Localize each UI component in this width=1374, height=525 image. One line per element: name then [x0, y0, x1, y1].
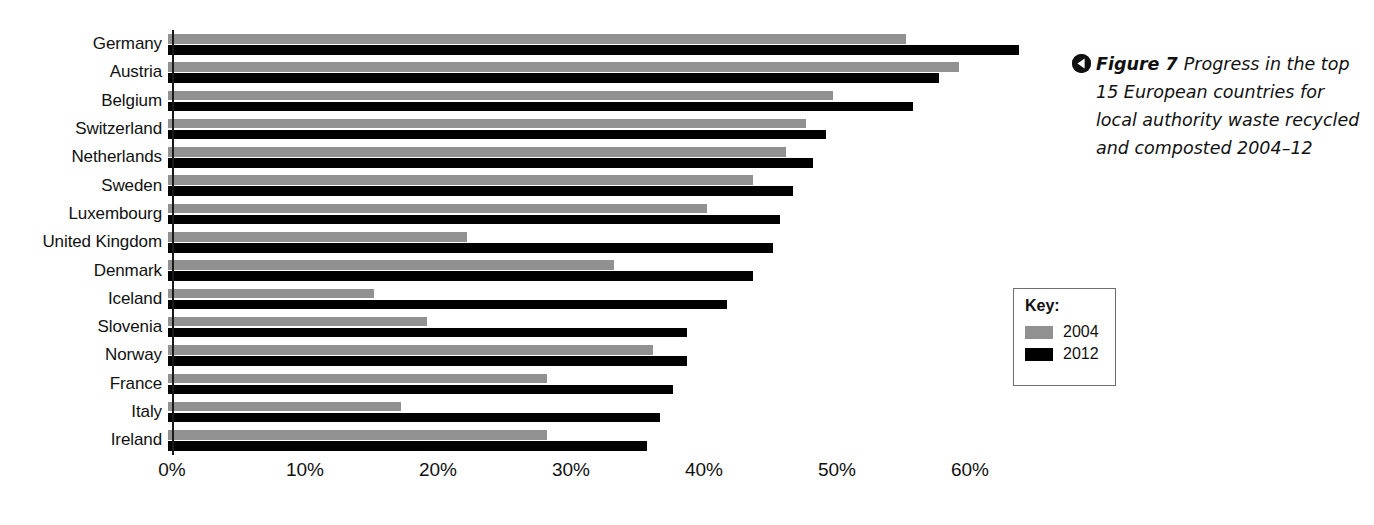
bars-cell — [168, 30, 1040, 58]
x-tick-label: 20% — [419, 459, 457, 481]
bar-2004 — [168, 260, 614, 270]
bars-cell — [168, 171, 1040, 199]
bar-2012 — [168, 271, 753, 281]
bar-2012 — [168, 158, 813, 168]
bar-2012 — [168, 130, 826, 140]
bars-cell — [168, 228, 1040, 256]
bar-2004 — [168, 204, 707, 214]
bar-2004 — [168, 232, 467, 242]
chart-row: Italy — [0, 398, 1040, 426]
category-label: Denmark — [0, 262, 168, 280]
category-label: Iceland — [0, 290, 168, 308]
bar-2004 — [168, 175, 753, 185]
bar-2012 — [168, 328, 687, 338]
chart-row: Belgium — [0, 87, 1040, 115]
category-label: Germany — [0, 35, 168, 53]
chart-row: Switzerland — [0, 115, 1040, 143]
chart-row: Sweden — [0, 171, 1040, 199]
bar-2012 — [168, 356, 687, 366]
plot-area: GermanyAustriaBelgiumSwitzerlandNetherla… — [0, 30, 1040, 455]
bar-2004 — [168, 91, 833, 101]
bars-cell — [168, 341, 1040, 369]
category-label: Slovenia — [0, 318, 168, 336]
figure-number: Figure 7 — [1096, 54, 1178, 74]
figure-caption: Figure 7Progress in the top 15 European … — [1096, 50, 1366, 162]
chart-row: Germany — [0, 30, 1040, 58]
legend-item-2004: 2004 — [1025, 321, 1115, 343]
category-label: Belgium — [0, 92, 168, 110]
bar-2012 — [168, 102, 913, 112]
bar-2012 — [168, 215, 780, 225]
bar-2004 — [168, 289, 374, 299]
bars-cell — [168, 313, 1040, 341]
bars-cell — [168, 398, 1040, 426]
chart-legend: Key: 2004 2012 — [1013, 288, 1116, 386]
x-tick-label: 50% — [818, 459, 856, 481]
bar-2012 — [168, 243, 773, 253]
x-tick-label: 60% — [951, 459, 989, 481]
bars-cell — [168, 426, 1040, 454]
bar-2012 — [168, 186, 793, 196]
bar-chart: GermanyAustriaBelgiumSwitzerlandNetherla… — [0, 0, 1040, 525]
y-axis-line — [172, 30, 174, 455]
chart-row: United Kingdom — [0, 228, 1040, 256]
bar-2004 — [168, 34, 906, 44]
bar-2004 — [168, 119, 806, 129]
bars-cell — [168, 285, 1040, 313]
legend-label-2012: 2012 — [1063, 345, 1099, 363]
bar-2012 — [168, 45, 1019, 55]
category-label: United Kingdom — [0, 233, 168, 251]
bar-2012 — [168, 441, 647, 451]
bar-2004 — [168, 317, 427, 327]
legend-item-2012: 2012 — [1025, 343, 1115, 365]
bar-2012 — [168, 300, 727, 310]
bar-2012 — [168, 385, 673, 395]
category-label: Austria — [0, 63, 168, 81]
x-tick-label: 30% — [552, 459, 590, 481]
category-label: Ireland — [0, 431, 168, 449]
category-label: Norway — [0, 346, 168, 364]
bars-cell — [168, 87, 1040, 115]
x-tick-label: 40% — [685, 459, 723, 481]
figure-container: GermanyAustriaBelgiumSwitzerlandNetherla… — [0, 0, 1374, 525]
left-triangle-icon — [1072, 54, 1091, 73]
chart-row: France — [0, 370, 1040, 398]
bars-cell — [168, 256, 1040, 284]
category-label: Switzerland — [0, 120, 168, 138]
chart-row: Iceland — [0, 285, 1040, 313]
x-axis-tick-labels: 0%10%20%30%40%50%60% — [0, 459, 1040, 499]
chart-row: Ireland — [0, 426, 1040, 454]
bar-2012 — [168, 73, 939, 83]
chart-row: Luxembourg — [0, 200, 1040, 228]
bars-cell — [168, 115, 1040, 143]
legend-title: Key: — [1025, 296, 1115, 315]
category-label: Netherlands — [0, 148, 168, 166]
chart-row: Denmark — [0, 256, 1040, 284]
bars-cell — [168, 58, 1040, 86]
legend-swatch-2004 — [1025, 326, 1053, 339]
chart-row: Netherlands — [0, 143, 1040, 171]
category-label: Italy — [0, 403, 168, 421]
bar-2004 — [168, 374, 547, 384]
bar-2004 — [168, 62, 959, 72]
legend-label-2004: 2004 — [1063, 323, 1099, 341]
category-label: Sweden — [0, 177, 168, 195]
bar-2004 — [168, 402, 401, 412]
chart-row: Norway — [0, 341, 1040, 369]
bars-cell — [168, 143, 1040, 171]
bars-cell — [168, 370, 1040, 398]
bar-2004 — [168, 147, 786, 157]
bars-cell — [168, 200, 1040, 228]
bar-2004 — [168, 430, 547, 440]
chart-row: Austria — [0, 58, 1040, 86]
category-label: France — [0, 375, 168, 393]
bar-2004 — [168, 345, 653, 355]
legend-swatch-2012 — [1025, 348, 1053, 361]
bar-2012 — [168, 413, 660, 423]
category-label: Luxembourg — [0, 205, 168, 223]
x-tick-label: 0% — [158, 459, 185, 481]
chart-row: Slovenia — [0, 313, 1040, 341]
x-tick-label: 10% — [286, 459, 324, 481]
